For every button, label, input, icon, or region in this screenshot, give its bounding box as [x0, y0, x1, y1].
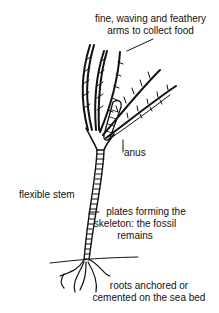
roots-label: roots anchored or cemented on the sea be…: [84, 280, 214, 304]
arms-leader-line: [127, 39, 153, 51]
plates-label-line-3: remains: [80, 230, 190, 242]
crinoid-illustration: [0, 0, 219, 313]
roots-label-line-1: roots anchored or: [84, 280, 214, 292]
arms-label-line-2: arms to collect food: [88, 25, 213, 37]
plates-label-line-2: skeleton: the fossil: [80, 218, 190, 230]
arms-label: fine, waving and feathery arms to collec…: [88, 13, 213, 37]
plates-label-line-1: plates forming the: [80, 206, 190, 218]
flexible-stem-label: flexible stem: [19, 189, 75, 201]
plates-label: plates forming the skeleton: the fossil …: [80, 206, 190, 242]
crown-arms: [83, 45, 176, 140]
roots-label-line-2: cemented on the sea bed: [84, 292, 214, 304]
anus-label: anus: [124, 147, 146, 159]
arms-label-line-1: fine, waving and feathery: [88, 13, 213, 25]
